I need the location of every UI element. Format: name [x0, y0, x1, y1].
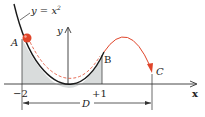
y-axis-label: y [56, 25, 63, 36]
curve-label: y = x2 [30, 4, 61, 16]
point-label-c: C [156, 66, 164, 77]
projectile-arrowhead-icon [147, 63, 153, 73]
ball [23, 34, 32, 43]
point-label-a: A [10, 37, 18, 48]
shaded-area [22, 39, 102, 88]
dimension-arrow-left-icon [23, 101, 29, 105]
dimension-label: D [81, 98, 90, 109]
dimension-arrow-right-icon [145, 101, 151, 105]
parabola-projectile-diagram: y = x2 y x A B C −2 +1 D [0, 0, 205, 117]
tick-label-minus-2: −2 [13, 88, 28, 99]
tick-label-plus-1: +1 [92, 88, 107, 99]
point-label-b: B [104, 54, 111, 65]
ball-highlight [24, 35, 26, 37]
x-axis-label: x [192, 88, 199, 99]
curve-label-leader [20, 13, 30, 20]
